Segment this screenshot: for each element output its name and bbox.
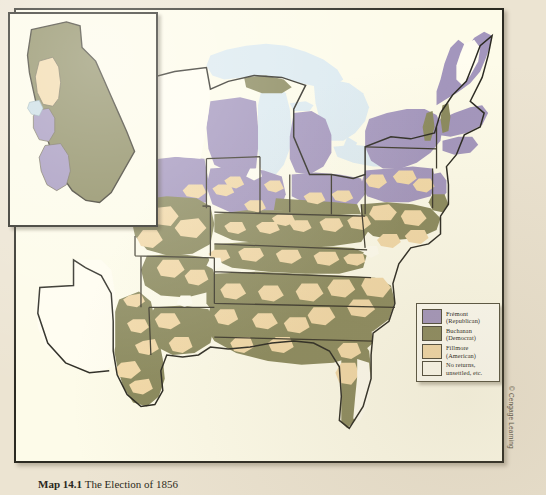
legend-candidate-fremont: Frémont	[446, 310, 468, 317]
legend-label-no-returns: No returns, unsettled, etc.	[446, 361, 482, 376]
page-background: .pu { fill:#a396bd; } .ol { fill:#8b8a5e…	[0, 0, 546, 495]
legend-party-buchanan: (Democrat)	[446, 334, 476, 341]
legend-candidate-buchanan: Buchanan	[446, 327, 472, 334]
legend-label-fillmore: Fillmore (American)	[446, 344, 476, 359]
legend-candidate-fillmore: Fillmore	[446, 344, 469, 351]
legend-swatch-fillmore	[422, 344, 442, 359]
legend-item-fillmore: Fillmore (American)	[422, 344, 495, 359]
legend-swatch-fremont	[422, 309, 442, 324]
california-inset-map	[10, 14, 156, 225]
legend-item-no-returns: No returns, unsettled, etc.	[422, 361, 495, 376]
legend-swatch-no-returns	[422, 361, 442, 376]
legend-item-buchanan: Buchanan (Democrat)	[422, 326, 495, 341]
legend-item-fremont: Frémont (Republican)	[422, 309, 495, 324]
legend-party-no-returns: unsettled, etc.	[446, 369, 482, 376]
copyright-credit: © Cengage Learning	[508, 386, 515, 449]
map-legend: Frémont (Republican) Buchanan (Democrat)…	[416, 303, 500, 382]
legend-party-fillmore: (American)	[446, 352, 476, 359]
california-inset-frame	[8, 12, 158, 227]
caption-label: Map 14.1	[38, 478, 85, 490]
caption-text: The Election of 1856	[85, 478, 178, 490]
figure-caption: Map 14.1 The Election of 1856	[38, 478, 178, 490]
legend-swatch-buchanan	[422, 326, 442, 341]
legend-candidate-no-returns: No returns,	[446, 361, 475, 368]
wisconsin-fremont	[206, 97, 258, 172]
legend-label-fremont: Frémont (Republican)	[446, 309, 480, 324]
legend-label-buchanan: Buchanan (Democrat)	[446, 326, 476, 341]
legend-party-fremont: (Republican)	[446, 317, 480, 324]
